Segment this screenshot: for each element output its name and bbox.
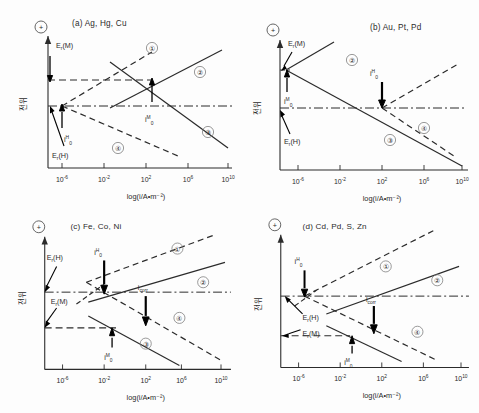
panel-a: + (a) Ag, Hg, Cu — [0, 0, 239, 206]
y-axis-arrow-d — [278, 235, 284, 243]
y-axis-label-c: 전위 — [17, 291, 27, 305]
xtick-2-b: 102 — [377, 177, 388, 185]
i0-h-label-d: iH0 — [295, 257, 303, 268]
line-3-c — [88, 316, 179, 366]
x-axis-label-c: log(i/A•m⁻²) — [127, 393, 165, 402]
line-4-c — [86, 282, 223, 361]
i0-h-label-c: iH0 — [94, 248, 102, 259]
x-axis-label-d: log(i/A•m⁻²) — [363, 391, 401, 400]
line-number-1-c: ① — [174, 246, 180, 254]
line-1-c — [86, 235, 215, 283]
xtick-4-a: 1010 — [221, 175, 235, 183]
line-number-2-b: ② — [349, 56, 355, 65]
xtick-2-d: 102 — [377, 374, 388, 382]
panel-c-title: (c) Fe, Co, Ni — [70, 222, 121, 231]
xtick-3-b: 106 — [419, 177, 430, 185]
er-h-label-a: Er(H) — [52, 151, 68, 161]
er-m-label-d: Er(M) — [303, 330, 320, 339]
line-number-2-c: ② — [200, 279, 206, 287]
xtick-0-d: 10-6 — [293, 374, 305, 382]
y-axis-arrow-c — [42, 237, 48, 245]
line-2-a — [110, 50, 222, 108]
line-1-d — [305, 231, 434, 296]
line-number-1-d: ① — [383, 263, 389, 271]
line-3-d — [326, 326, 401, 362]
line-number-4-a: ④ — [115, 144, 121, 153]
er-m-label-b: Er(M) — [288, 39, 305, 49]
xtick-4-c: 1010 — [214, 376, 227, 384]
xtick-0-b: 10-6 — [292, 177, 304, 185]
polarity-sign-c: + — [37, 224, 41, 232]
er-m-label-a: Er(M) — [56, 41, 73, 51]
er-m-label-c: Er(M) — [51, 298, 68, 307]
panel-d: + (d) Cd, Pd, S, Zn — [240, 205, 479, 411]
x-axis-label-a: log(i/A•m⁻²) — [127, 192, 166, 201]
line-1-a — [62, 52, 152, 106]
xtick-1-b: 10-2 — [334, 177, 346, 185]
i0-m-label-c: iM0 — [104, 353, 113, 364]
er-h-label-d: Er(H) — [303, 314, 319, 323]
er-h-label-c: Er(H) — [47, 254, 63, 263]
line-number-4-c: ④ — [176, 315, 182, 323]
panel-b-title: (b) Au, Pt, Pd — [370, 23, 422, 32]
line-number-3-a: ③ — [205, 128, 211, 137]
line-number-3-b: ③ — [387, 136, 393, 145]
line-3-b — [286, 70, 462, 166]
line-number-4-b: ④ — [421, 124, 427, 133]
line-number-2-a: ② — [197, 68, 203, 77]
x-axis-label-b: log(i/A•m⁻²) — [363, 194, 402, 203]
y-axis-arrow-a — [45, 36, 51, 44]
i0-h-label-a: iH0 — [64, 135, 72, 146]
xtick-4-d: 1010 — [454, 374, 467, 382]
er-h-label-b: Er(H) — [284, 137, 300, 147]
xtick-1-c: 10-2 — [98, 376, 110, 384]
polarity-sign-b: + — [271, 26, 275, 35]
line-2-d — [326, 266, 459, 314]
xtick-2-a: 102 — [141, 175, 152, 183]
line-number-1-a: ① — [149, 44, 155, 53]
polarity-sign-d: + — [273, 222, 277, 230]
xtick-3-c: 106 — [176, 376, 187, 384]
y-axis-label-b: 전위 — [252, 101, 262, 115]
y-axis-label-a: 전위 — [18, 97, 28, 111]
i0-m-label-b: iM0 — [284, 97, 293, 108]
xtick-1-d: 10-2 — [334, 374, 346, 382]
line-number-2-d: ② — [434, 277, 440, 285]
xtick-4-b: 1010 — [455, 177, 469, 185]
polarity-sign-a: + — [39, 23, 43, 32]
y-axis-arrow-b — [277, 40, 283, 48]
line-number-3-c: ③ — [143, 341, 149, 349]
panel-b: + (b) Au, Pt, Pd — [240, 0, 479, 206]
xtick-0-a: 10-6 — [56, 175, 68, 183]
xtick-2-c: 102 — [141, 376, 152, 384]
xtick-3-a: 106 — [183, 175, 194, 183]
xtick-3-d: 106 — [418, 374, 429, 382]
xtick-0-c: 10-6 — [57, 376, 69, 384]
panel-a-title: (a) Ag, Hg, Cu — [72, 19, 127, 28]
line-4-down-b — [382, 108, 454, 156]
panel-c: + (c) Fe, Co, Ni — [0, 205, 239, 411]
xtick-1-a: 10-2 — [98, 175, 110, 183]
line-number-4-d: ④ — [414, 329, 420, 337]
panel-d-title: (d) Cd, Pd, S, Zn — [303, 222, 367, 231]
y-axis-label-d: 전위 — [253, 297, 263, 311]
line-4-up-b — [382, 64, 458, 108]
i0-m-label-a: iM0 — [145, 115, 154, 126]
evans-diagram-figure: + (a) Ag, Hg, Cu — [0, 0, 479, 413]
i0-h-label-b: iH0 — [370, 69, 378, 80]
